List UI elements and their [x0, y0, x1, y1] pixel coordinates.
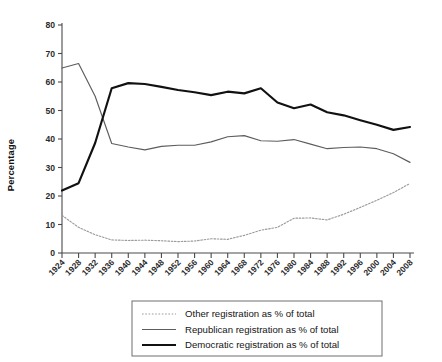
line-chart: Percentage 01020304050607080 19241928193…	[0, 0, 442, 362]
y-axis-title-text: Percentage	[5, 139, 16, 192]
x-axis-tick-label: 1944	[129, 257, 149, 277]
legend-label-2: Democratic registration as % of total	[185, 339, 339, 350]
x-axis-tick-label: 1992	[328, 257, 348, 277]
x-axis-tick-label: 1936	[96, 257, 116, 277]
x-axis-tick-label: 1972	[245, 257, 265, 277]
y-axis-tick-label: 10	[45, 220, 55, 230]
x-axis-tick-label: 1932	[80, 257, 100, 277]
y-axis-tick-label: 30	[45, 163, 55, 173]
y-axis-title: Percentage	[5, 139, 16, 192]
y-axis-tick-label: 20	[45, 191, 55, 201]
x-axis-tick-label: 1980	[278, 257, 298, 277]
y-axis-tick-label: 60	[45, 77, 55, 87]
x-axis-tick-label: 1924	[46, 257, 66, 277]
x-axis-tick-label: 1968	[229, 257, 249, 277]
x-axis-tick-label: 1960	[196, 257, 216, 277]
x-axis-tick-label: 1984	[295, 257, 315, 277]
x-axis-tick-label: 1952	[162, 257, 182, 277]
data-series-group	[62, 63, 410, 241]
series-line-republican	[62, 63, 410, 162]
y-axis-tick-label: 80	[45, 20, 55, 30]
legend-label-0: Other registration as % of total	[185, 308, 315, 319]
x-axis-tick-label: 1964	[212, 257, 232, 277]
x-axis-tick-label: 1988	[312, 257, 332, 277]
x-axis: 1924192819321936194019441948195219561960…	[46, 253, 414, 278]
series-line-other	[62, 183, 410, 241]
x-axis-tick-label: 1940	[113, 257, 133, 277]
y-axis-tick-label: 40	[45, 134, 55, 144]
x-axis-tick-label: 1956	[179, 257, 199, 277]
chart-canvas: Percentage 01020304050607080 19241928193…	[0, 0, 442, 362]
y-axis-tick-label: 50	[45, 106, 55, 116]
y-axis-tick-label: 70	[45, 49, 55, 59]
x-axis-tick-label: 1948	[146, 257, 166, 277]
legend-label-1: Republican registration as % of total	[185, 324, 339, 335]
x-axis-tick-label: 2000	[361, 257, 381, 277]
x-axis-tick-label: 2004	[378, 257, 398, 277]
series-line-democratic	[62, 83, 410, 190]
chart-legend: Other registration as % of totalRepublic…	[132, 301, 382, 356]
y-axis-tick-label: 0	[50, 248, 55, 258]
x-axis-tick-label: 1976	[262, 257, 282, 277]
y-axis: 01020304050607080	[45, 20, 62, 258]
x-axis-tick-label: 2008	[394, 257, 414, 277]
x-axis-tick-label: 1928	[63, 257, 83, 277]
x-axis-tick-label: 1996	[345, 257, 365, 277]
